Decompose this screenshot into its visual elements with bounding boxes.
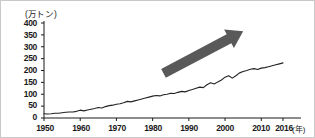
plot-area <box>1 1 315 138</box>
trend-arrow-shape <box>161 29 243 77</box>
line-chart-figure: (万トン) 400 350 300 250 200 150 100 50 0 1… <box>0 0 315 138</box>
growth-trend-arrow <box>161 29 243 77</box>
